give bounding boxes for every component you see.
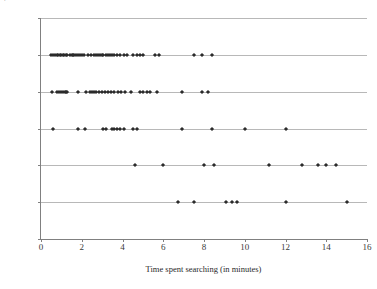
data-point [267,163,271,167]
data-point [243,126,247,130]
data-point [83,126,87,130]
data-point [202,163,206,167]
gridline-y-6 [41,18,367,19]
x-tick-mark-6 [163,239,164,242]
x-tick-mark-0 [41,239,42,242]
data-point [212,163,216,167]
x-tick-mark-12 [286,239,287,242]
y-tick-mark-2 [38,165,41,166]
data-point [179,90,183,94]
x-tick-label-10: 10 [230,243,260,252]
y-tick-mark-5 [38,55,41,56]
data-point [121,126,125,130]
x-tick-label-6: 6 [148,243,178,252]
x-tick-label-14: 14 [311,243,341,252]
data-point [229,200,233,204]
data-point [316,163,320,167]
y-tick-mark-6 [38,18,41,19]
data-point [345,200,349,204]
y-axis-title-line2: (5-point rating scale) [8,0,18,34]
x-tick-mark-4 [123,239,124,242]
gridline-y-1 [41,202,367,203]
y-axis-title: Perceptions of having enough search time… [0,0,18,34]
data-point [148,90,152,94]
y-tick-mark-1 [38,202,41,203]
data-point [192,53,196,57]
data-point [133,163,137,167]
data-point [200,90,204,94]
data-point [179,126,183,130]
data-point [76,90,80,94]
data-point [234,200,238,204]
x-tick-label-12: 12 [271,243,301,252]
data-point [206,90,210,94]
data-point [76,126,80,130]
y-tick-mark-4 [38,92,41,93]
x-tick-mark-16 [367,239,368,242]
data-point [51,126,55,130]
data-point [300,163,304,167]
data-point [129,90,133,94]
x-tick-label-8: 8 [189,243,219,252]
x-tick-mark-8 [204,239,205,242]
data-point [155,90,159,94]
gridline-y-3 [41,129,367,130]
data-point [224,200,228,204]
plot-area: 01234560246810121416 [40,18,367,240]
x-tick-mark-10 [245,239,246,242]
data-point [283,200,287,204]
x-tick-mark-2 [82,239,83,242]
data-point [135,126,139,130]
y-axis-title-line1: Perceptions of having enough search time [0,0,7,1]
data-point [324,163,328,167]
data-point [210,126,214,130]
x-axis-title: Time spent searching (in minutes) [40,264,367,274]
data-point [175,200,179,204]
x-tick-label-16: 16 [352,243,377,252]
data-point [200,53,204,57]
scatter-chart: Perceptions of having enough search time… [0,0,377,289]
data-point [141,53,145,57]
data-point [192,200,196,204]
data-point [104,126,108,130]
data-point [157,53,161,57]
x-tick-label-2: 2 [67,243,97,252]
data-point [65,90,69,94]
x-tick-label-4: 4 [108,243,138,252]
y-tick-mark-3 [38,129,41,130]
data-point [124,53,128,57]
data-point [122,90,126,94]
data-point [161,163,165,167]
x-tick-label-0: 0 [26,243,56,252]
data-point [283,126,287,130]
x-tick-mark-14 [326,239,327,242]
data-point [210,53,214,57]
